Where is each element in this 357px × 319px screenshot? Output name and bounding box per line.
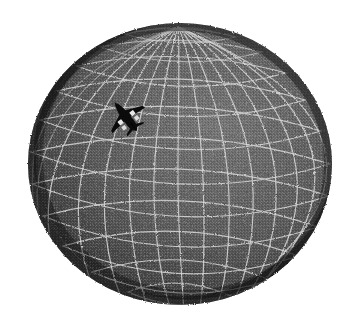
aircraft-engine-right-outer xyxy=(134,115,140,121)
globe-render xyxy=(0,0,357,319)
sphere-dither-texture xyxy=(0,0,357,319)
aircraft-engine-left-outer xyxy=(121,125,127,131)
aircraft-body-group xyxy=(103,98,149,136)
globe-body xyxy=(0,0,357,319)
globe-grid xyxy=(0,0,357,319)
globe-scene xyxy=(0,0,357,319)
aircraft-icon xyxy=(103,98,149,136)
